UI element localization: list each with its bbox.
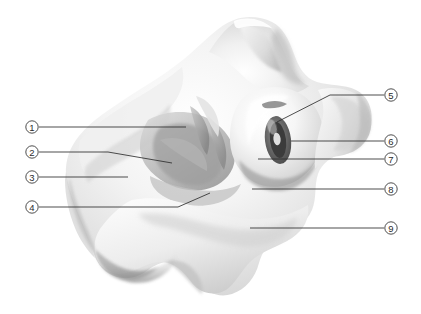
callout-label-5: 5 (388, 90, 393, 101)
callout-label-6: 6 (388, 136, 393, 147)
callout-label-3: 3 (29, 172, 34, 183)
callout-label-2: 2 (29, 147, 34, 158)
specimen-illustration: 1 2 3 4 5 (0, 0, 421, 314)
callout-label-4: 4 (29, 202, 34, 213)
callout-label-7: 7 (388, 154, 393, 165)
callout-label-8: 8 (388, 184, 393, 195)
callout-label-1: 1 (29, 122, 34, 133)
anatomical-figure: 1 2 3 4 5 (0, 0, 421, 314)
callout-label-9: 9 (388, 223, 393, 234)
